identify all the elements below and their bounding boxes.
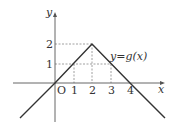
origin-label: O bbox=[57, 84, 66, 97]
function-label: y=g(x) bbox=[109, 50, 147, 63]
x-tick-3: 3 bbox=[108, 84, 115, 97]
x-tick-1: 1 bbox=[71, 84, 78, 97]
y-tick-1: 1 bbox=[46, 58, 53, 71]
y-axis-label: y bbox=[45, 6, 53, 19]
x-tick-4: 4 bbox=[127, 84, 134, 97]
x-tick-2: 2 bbox=[89, 84, 96, 97]
y-tick-2: 2 bbox=[46, 38, 53, 51]
x-axis-label: x bbox=[158, 83, 165, 96]
graph-of-g: y x O 1 2 3 4 1 2 y=g(x) bbox=[0, 0, 174, 131]
guide-lines bbox=[55, 44, 111, 83]
y-axis-arrow-icon bbox=[53, 12, 57, 17]
